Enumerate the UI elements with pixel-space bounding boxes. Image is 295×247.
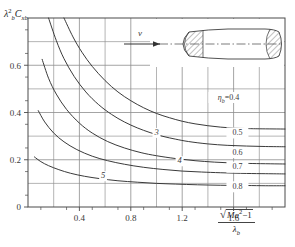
curve-label-3: 3: [153, 127, 158, 137]
base-hatch: [266, 29, 282, 59]
eta-label-1: 0.5: [232, 128, 242, 137]
velocity-label: v: [138, 28, 142, 38]
y-tick-label: 0: [17, 202, 22, 212]
y-axis-label: λ2bCxb: [4, 8, 28, 22]
eta-label-3: 0.7: [232, 162, 242, 171]
y-tick-label: 0.4: [10, 108, 22, 118]
y-tick-label: 0.2: [10, 155, 21, 165]
x-tick-label: 0.8: [125, 213, 137, 223]
eta-label-2: 0.6: [232, 148, 242, 157]
curve-label-5: 5: [101, 170, 105, 180]
inset-backdrop: [150, 19, 284, 67]
y-tick-label: 0.6: [10, 61, 22, 71]
chart-figure: v 345 ηb=0.40.50.60.70.8 0.40.81.21.600.…: [0, 0, 295, 247]
curve-label-4: 4: [178, 155, 183, 165]
eta-label-4: 0.8: [232, 182, 242, 191]
x-tick-label: 1.2: [177, 213, 188, 223]
x-tick-label: 0.4: [74, 213, 86, 223]
x-axis-label: √Ma2−1λb: [218, 208, 255, 236]
